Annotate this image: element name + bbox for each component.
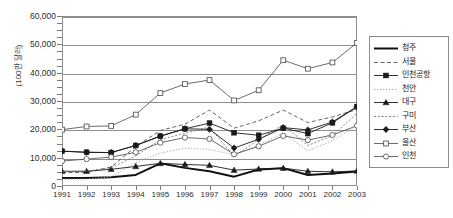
legend-key-icon (373, 149, 399, 162)
data-point-marker (354, 123, 357, 128)
legend-label: 구미 (402, 109, 416, 122)
data-point-marker (182, 135, 187, 140)
data-point-marker (84, 124, 89, 129)
x-axis-tick-label: 1999 (250, 190, 268, 199)
data-point-marker (158, 140, 163, 145)
x-axis-tick-mark (283, 186, 284, 190)
x-axis-tick-label: 1996 (176, 190, 194, 199)
x-axis-tick-label: 2001 (299, 190, 317, 199)
data-point-marker (383, 127, 389, 133)
y-axis-tick-label: 60,000 (0, 11, 56, 21)
data-point-marker (158, 91, 163, 96)
legend-key-icon (373, 109, 399, 122)
data-point-marker (354, 168, 357, 173)
x-axis-tick-mark (259, 186, 260, 190)
data-point-marker (232, 98, 237, 103)
data-point-marker (109, 155, 114, 160)
data-point-marker (281, 133, 286, 138)
x-axis-tick-mark (136, 186, 137, 190)
legend-key-icon (373, 55, 399, 68)
series-부산 (62, 103, 357, 155)
legend-label: 서울 (402, 55, 416, 68)
data-point-marker (231, 152, 236, 157)
legend-label: 인천공항 (402, 68, 430, 81)
x-axis-tick-label: 1994 (127, 190, 145, 199)
legend-item-청주[interactable]: 청주 (373, 41, 445, 55)
data-point-marker (383, 154, 388, 159)
data-point-marker (207, 121, 212, 126)
x-axis-tick-label: 1998 (225, 190, 243, 199)
legend-key-icon (373, 95, 399, 108)
legend-item-천안[interactable]: 천안 (373, 82, 445, 96)
x-axis-tick-label: 2002 (324, 190, 342, 199)
x-axis-tick-mark (160, 186, 161, 190)
data-point-marker (281, 58, 286, 63)
data-point-marker (183, 82, 188, 87)
data-point-marker (207, 78, 212, 83)
data-point-marker (207, 136, 212, 141)
data-point-marker (384, 141, 389, 146)
data-point-marker (384, 73, 389, 78)
data-point-marker (62, 158, 65, 163)
legend-key-icon (373, 68, 399, 81)
x-axis-tick-mark (234, 186, 235, 190)
legend-item-구미[interactable]: 구미 (373, 109, 445, 123)
y-axis-tick-label: 0 (0, 181, 56, 191)
legend-label: 인천 (402, 149, 416, 162)
legend-item-대구[interactable]: 대구 (373, 95, 445, 109)
x-axis-tick-mark (111, 186, 112, 190)
data-point-marker (62, 127, 64, 132)
x-axis-tick-label: 2003 (348, 190, 366, 199)
data-point-marker (207, 126, 213, 132)
series-line (62, 43, 357, 130)
x-axis-tick-mark (308, 186, 309, 190)
data-point-marker (355, 41, 357, 46)
x-axis-tick-label: 1992 (78, 190, 96, 199)
legend-label: 대구 (402, 95, 416, 108)
data-point-marker (330, 132, 335, 137)
data-point-marker (330, 60, 335, 65)
chart-container: (100만 달러) 010,00020,00030,00040,00050,00… (0, 0, 453, 218)
data-point-marker (256, 144, 261, 149)
data-point-marker (133, 112, 138, 117)
data-point-marker (84, 156, 89, 161)
x-axis-tick-label: 1991 (53, 190, 71, 199)
legend-item-인천[interactable]: 인천 (373, 149, 445, 163)
data-point-marker (305, 66, 310, 71)
data-point-marker (109, 124, 114, 129)
legend-key-icon (373, 82, 399, 95)
data-point-marker (232, 130, 237, 135)
legend-item-울산[interactable]: 울산 (373, 136, 445, 150)
y-axis-tick-label: 20,000 (0, 124, 56, 134)
x-axis-tick-mark (332, 186, 333, 190)
x-axis-tick-label: 1997 (201, 190, 219, 199)
legend-label: 울산 (402, 136, 416, 149)
legend-item-서울[interactable]: 서울 (373, 55, 445, 69)
legend-item-인천공항[interactable]: 인천공항 (373, 68, 445, 82)
series-울산 (62, 41, 357, 133)
x-axis-tick-mark (185, 186, 186, 190)
x-axis-tick-label: 1995 (151, 190, 169, 199)
legend-key-icon (373, 122, 399, 135)
y-axis-tick-label: 50,000 (0, 39, 56, 49)
x-axis-tick-mark (357, 186, 358, 190)
x-axis-tick-label: 1993 (102, 190, 120, 199)
x-axis-tick-mark (87, 186, 88, 190)
data-point-marker (231, 145, 237, 151)
legend-item-부산[interactable]: 부산 (373, 122, 445, 136)
y-axis-tick-label: 40,000 (0, 68, 56, 78)
data-point-marker (305, 138, 310, 143)
legend-label: 청주 (402, 41, 416, 54)
legend-key-icon (373, 136, 399, 149)
x-axis-tick-mark (210, 186, 211, 190)
y-axis-tick-label: 30,000 (0, 96, 56, 106)
legend: 청주서울인천공항천안대구구미부산울산인천 (369, 36, 449, 168)
data-point-marker (133, 150, 138, 155)
data-point-marker (256, 88, 261, 93)
legend-label: 천안 (402, 82, 416, 95)
x-axis-tick-label: 2000 (274, 190, 292, 199)
series-layer (62, 16, 357, 186)
legend-label: 부산 (402, 122, 416, 135)
x-axis-tick-mark (62, 186, 63, 190)
legend-key-icon (373, 41, 399, 54)
